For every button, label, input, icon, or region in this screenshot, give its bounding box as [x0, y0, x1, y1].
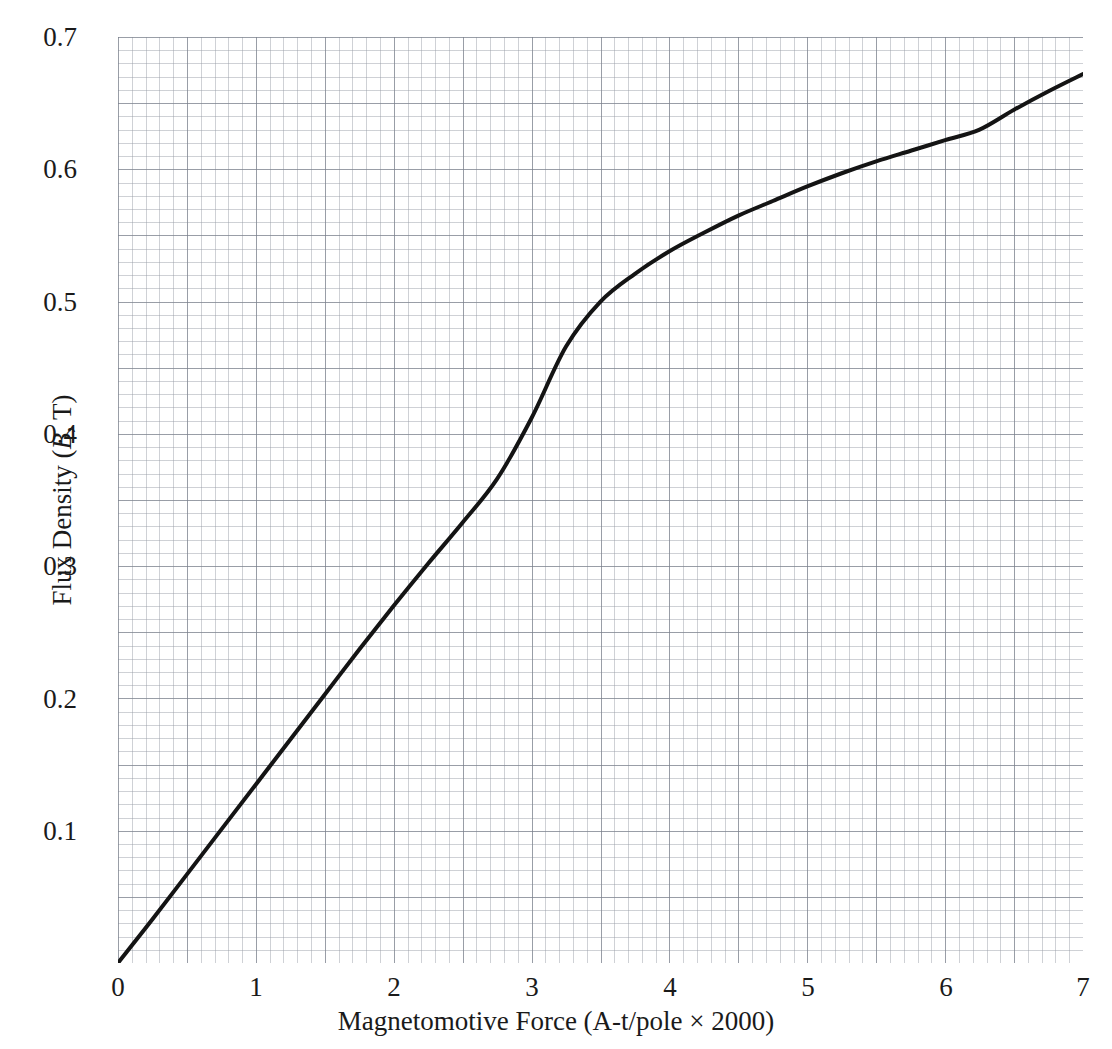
y-axis-title: Flux Density (B, T) [42, 37, 82, 963]
x-tick-label-7: 7 [1076, 972, 1090, 1003]
x-tick-label-0: 0 [111, 972, 125, 1003]
plot-area [118, 37, 1083, 963]
x-tick-label-2: 2 [387, 972, 401, 1003]
y-axis-title-symbol: B [47, 433, 77, 450]
y-axis-title-suffix: , T) [47, 395, 77, 434]
curve-plot [118, 37, 1083, 963]
y-axis-title-prefix: Flux Density ( [47, 450, 77, 606]
x-tick-label-1: 1 [249, 972, 263, 1003]
x-tick-label-4: 4 [663, 972, 677, 1003]
magnetization-curve-line [118, 74, 1083, 963]
x-axis-title: Magnetomotive Force (A-t/pole × 2000) [0, 1006, 1112, 1037]
x-tick-label-5: 5 [801, 972, 815, 1003]
magnetization-curve-figure: 0.7 0.6 0.5 0.4 0.3 0.2 0.1 0 1 2 3 4 5 … [0, 0, 1112, 1049]
x-tick-label-6: 6 [939, 972, 953, 1003]
x-tick-label-3: 3 [525, 972, 539, 1003]
